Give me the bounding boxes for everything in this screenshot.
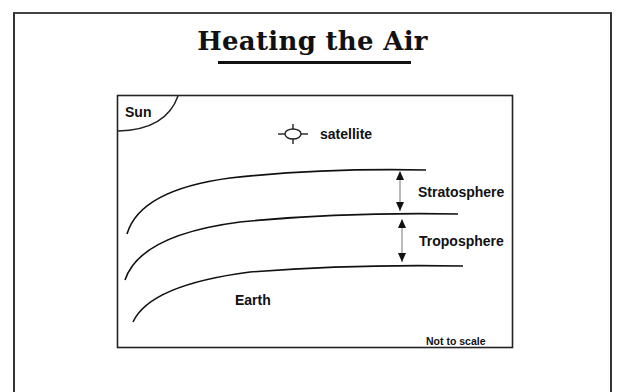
satellite-icon	[278, 124, 308, 144]
stratosphere-label: Stratosphere	[418, 184, 505, 200]
earth-label: Earth	[235, 292, 271, 308]
earth-surface-line	[133, 266, 463, 322]
troposphere-height-arrow	[398, 219, 406, 262]
tropopause-line	[125, 214, 458, 280]
satellite-label: satellite	[320, 126, 372, 142]
diagram-frame	[118, 96, 513, 348]
stratosphere-height-arrow	[396, 171, 404, 211]
scale-note: Not to scale	[426, 335, 486, 347]
stratosphere-top-line	[127, 170, 426, 234]
sun-label: Sun	[125, 104, 151, 120]
troposphere-label: Troposphere	[419, 233, 504, 249]
